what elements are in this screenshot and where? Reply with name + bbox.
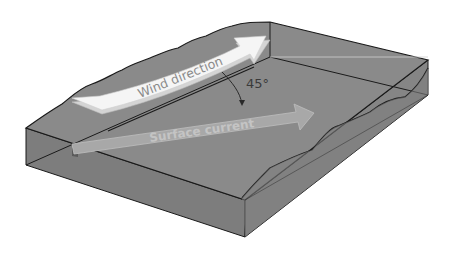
angle-label: 45° [246,76,269,91]
ekman-diagram: Wind direction 45° Surface current [0,0,459,259]
